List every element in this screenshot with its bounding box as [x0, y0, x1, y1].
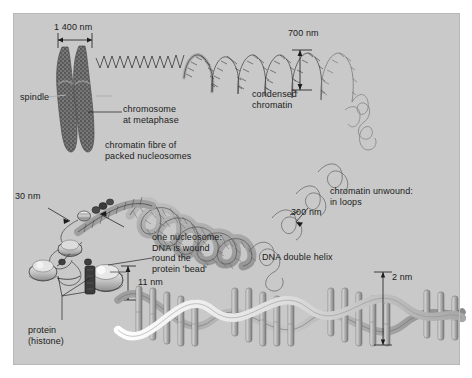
label-protein-histone: protein (histone) [28, 325, 64, 346]
label-scale-1400nm: 1 400 nm [54, 22, 92, 33]
label-one-nucleosome: one nucleosome: DNA is wound round the p… [152, 232, 222, 274]
label-scale-700nm: 700 nm [288, 28, 319, 39]
label-chromosome-at-metaphase: chromosome at metaphase [123, 104, 179, 125]
leader-nucleosome [108, 258, 152, 265]
dna-double-helix [118, 286, 462, 346]
condensed-chromatin-coil [96, 53, 376, 150]
label-spindle: spindle [20, 92, 49, 103]
label-scale-30nm: 30 nm [15, 191, 41, 202]
label-scale-300nm: 300 nm [291, 207, 322, 218]
nucleosome-bead-stack [29, 240, 152, 320]
label-chromatin-fibre: chromatin fibre of packed nucleosomes [105, 140, 191, 161]
metaphase-chromosome [57, 46, 94, 152]
label-dna-double-helix: DNA double helix [262, 252, 333, 263]
nucleosome-bead-main [85, 265, 123, 295]
label-chromatin-unwound: chromatin unwound: in loops [330, 186, 413, 207]
label-condensed-chromatin: condensed chromatin [252, 89, 297, 110]
label-scale-2nm: 2 nm [392, 272, 412, 283]
scale-1400nm-dimension [58, 33, 92, 48]
figure-root: 1 400 nm spindle chromosome at metaphase… [0, 0, 472, 378]
nucleosome-bead-b [29, 260, 57, 281]
label-scale-11nm: 11 nm [138, 277, 163, 288]
